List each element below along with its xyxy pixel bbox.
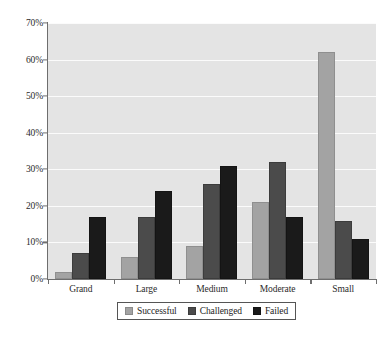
bar-group — [48, 23, 114, 279]
x-axis-tick-mark — [179, 279, 180, 284]
bar — [352, 239, 369, 279]
x-axis-category-label: Moderate — [245, 284, 311, 294]
plot-area-wrapper — [48, 23, 376, 279]
bar — [72, 253, 89, 279]
bar-group — [310, 23, 376, 279]
bar — [138, 217, 155, 279]
legend-swatch-icon — [188, 307, 196, 315]
bar — [286, 217, 303, 279]
x-axis-tick-mark — [245, 279, 246, 284]
bar — [318, 52, 335, 279]
bar — [252, 202, 269, 279]
bar-group — [179, 23, 245, 279]
y-axis-tick-marks — [0, 23, 48, 279]
x-axis-tick-mark — [48, 279, 49, 284]
x-axis-category-label: Medium — [179, 284, 245, 294]
x-axis-tick-mark — [310, 279, 311, 284]
legend-item[interactable]: Failed — [253, 306, 288, 316]
bar — [203, 184, 220, 279]
x-axis-category-label: Grand — [48, 284, 114, 294]
legend-item[interactable]: Successful — [125, 306, 177, 316]
plot-area — [48, 23, 376, 279]
x-axis-category-labels: GrandLargeMediumModerateSmall — [48, 284, 376, 294]
bar-group — [114, 23, 180, 279]
bar — [155, 191, 172, 279]
bar — [89, 217, 106, 279]
legend-swatch-icon — [253, 307, 261, 315]
legend-label: Challenged — [200, 306, 242, 316]
bar-groups — [48, 23, 376, 279]
x-axis-category-label: Small — [310, 284, 376, 294]
legend-label: Successful — [137, 306, 177, 316]
legend-item[interactable]: Challenged — [188, 306, 242, 316]
x-axis-tick-mark — [376, 279, 377, 284]
bar — [220, 166, 237, 279]
bar-group — [245, 23, 311, 279]
legend-label: Failed — [265, 306, 288, 316]
x-axis-tick-mark — [114, 279, 115, 284]
bar — [335, 221, 352, 280]
x-axis-category-label: Large — [114, 284, 180, 294]
bar — [186, 246, 203, 279]
bar — [269, 162, 286, 279]
legend-swatch-icon — [125, 307, 133, 315]
x-axis-line — [47, 279, 377, 280]
bar — [121, 257, 138, 279]
bar — [55, 272, 72, 279]
bar-chart: 0%10%20%30%40%50%60%70% GrandLargeMedium… — [0, 0, 391, 340]
chart-legend: SuccessfulChallengedFailed — [117, 302, 296, 320]
